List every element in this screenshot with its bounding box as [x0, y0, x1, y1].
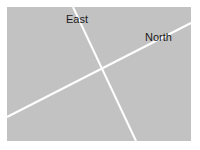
east-label: East	[66, 13, 88, 25]
north-label: North	[145, 31, 172, 43]
axes-lines	[0, 0, 200, 150]
east-axis-line	[73, 7, 136, 141]
